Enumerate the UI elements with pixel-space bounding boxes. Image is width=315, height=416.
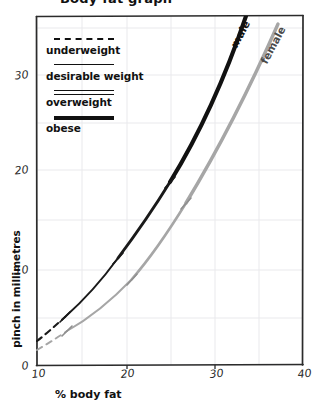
x-tick-30: 30 bbox=[209, 367, 224, 381]
x-axis-title: % body fat bbox=[55, 388, 122, 401]
y-tick-30: 30 bbox=[4, 68, 29, 83]
legend-item-obese: obese bbox=[46, 114, 166, 140]
legend-item-overweight: overweight bbox=[46, 88, 166, 114]
y-axis-title: pinch in millimetres bbox=[10, 229, 22, 349]
female-underweight-segment bbox=[37, 331, 67, 350]
x-tick-20: 20 bbox=[120, 367, 135, 381]
body-fat-chart: Body fat graph bbox=[0, 0, 315, 416]
x-tick-10: 10 bbox=[31, 367, 46, 381]
legend-item-underweight: underweight bbox=[46, 36, 166, 62]
male-desirable-segment bbox=[65, 258, 118, 317]
legend-swatch-double-line-icon bbox=[54, 90, 114, 95]
x-tick-40: 40 bbox=[297, 367, 312, 381]
legend-label-obese: obese bbox=[46, 122, 81, 134]
legend-label-underweight: underweight bbox=[46, 44, 120, 56]
y-tick-0: 0 bbox=[8, 359, 29, 374]
legend-item-desirable-weight: desirable weight bbox=[46, 62, 166, 88]
y-tick-20: 20 bbox=[4, 163, 29, 178]
legend-label-overweight: overweight bbox=[46, 96, 112, 108]
legend: underweight desirable weight overweight … bbox=[46, 36, 166, 140]
female-overweight-segment bbox=[132, 203, 186, 279]
legend-label-desirable-weight: desirable weight bbox=[46, 70, 143, 82]
